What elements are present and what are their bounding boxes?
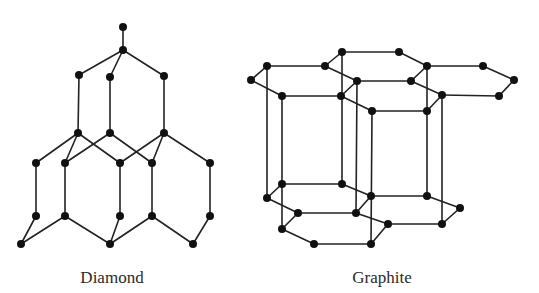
atom-node <box>321 62 329 70</box>
atom-node <box>189 240 197 248</box>
bond-line <box>193 216 210 244</box>
bond-line <box>78 133 120 163</box>
atom-node <box>479 62 487 70</box>
atom-node <box>338 48 346 56</box>
bond-line <box>65 216 110 244</box>
atom-node <box>278 180 286 188</box>
bond-line <box>371 111 372 244</box>
atom-node <box>337 92 345 100</box>
atom-node <box>75 71 83 79</box>
atom-node <box>61 212 69 220</box>
atom-node <box>423 62 431 70</box>
graphite-lattice-panel: Graphite <box>247 48 518 287</box>
atom-node <box>32 159 40 167</box>
atom-node <box>106 240 114 248</box>
bond-line <box>123 50 164 76</box>
bond-line <box>483 66 514 80</box>
bond-line <box>442 95 499 96</box>
diamond-atoms <box>17 23 214 248</box>
atom-node <box>294 209 302 217</box>
atom-node <box>61 159 69 167</box>
atom-node <box>407 77 415 85</box>
atom-node <box>106 129 114 137</box>
bond-line <box>282 229 314 244</box>
atom-node <box>368 107 376 115</box>
graphite-atoms <box>247 48 518 248</box>
atom-node <box>17 240 25 248</box>
atom-node <box>263 62 271 70</box>
diamond-label: Diamond <box>80 268 144 287</box>
atom-node <box>278 92 286 100</box>
atom-node <box>119 46 127 54</box>
atom-node <box>384 220 392 228</box>
bond-line <box>325 66 357 81</box>
bond-line <box>78 75 79 133</box>
atom-node <box>438 220 446 228</box>
bond-line <box>164 133 210 163</box>
structure-figure: Diamond Graphite <box>0 0 539 293</box>
bond-line <box>399 52 427 66</box>
atom-node <box>263 194 271 202</box>
atom-node <box>495 92 503 100</box>
graphite-label: Graphite <box>352 268 411 287</box>
graphite-bonds <box>251 52 514 244</box>
bond-line <box>110 216 152 244</box>
atom-node <box>423 192 431 200</box>
atom-node <box>353 77 361 85</box>
atom-node <box>148 212 156 220</box>
diamond-bonds <box>21 27 210 244</box>
atom-node <box>116 212 124 220</box>
atom-node <box>310 240 318 248</box>
atom-node <box>148 159 156 167</box>
bond-line <box>427 196 460 208</box>
atom-node <box>32 212 40 220</box>
atom-node <box>206 212 214 220</box>
bond-line <box>152 216 193 244</box>
diamond-lattice-panel: Diamond <box>17 23 214 287</box>
bond-line <box>356 81 357 213</box>
atom-node <box>423 107 431 115</box>
atom-node <box>247 76 255 84</box>
bond-line <box>110 133 152 163</box>
atom-node <box>338 180 346 188</box>
atom-node <box>367 192 375 200</box>
atom-node <box>278 225 286 233</box>
atom-node <box>106 73 114 81</box>
atom-node <box>510 76 518 84</box>
atom-node <box>74 129 82 137</box>
atom-node <box>119 23 127 31</box>
atom-node <box>116 159 124 167</box>
atom-node <box>438 91 446 99</box>
atom-node <box>206 159 214 167</box>
atom-node <box>395 48 403 56</box>
atom-node <box>456 204 464 212</box>
atom-node <box>160 72 168 80</box>
atom-node <box>160 129 168 137</box>
atom-node <box>352 209 360 217</box>
atom-node <box>367 240 375 248</box>
